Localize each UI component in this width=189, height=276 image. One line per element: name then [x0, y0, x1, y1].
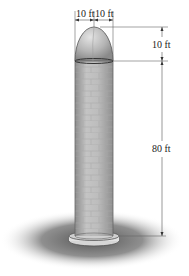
dim-label-top-left: 10 ft: [76, 9, 95, 19]
dim-label-dome-height: 10 ft: [152, 40, 171, 50]
silo-dome: [75, 27, 113, 61]
dim-label-cylinder-height: 80 ft: [152, 144, 171, 154]
dim-label-top-right: 10 ft: [95, 9, 114, 19]
